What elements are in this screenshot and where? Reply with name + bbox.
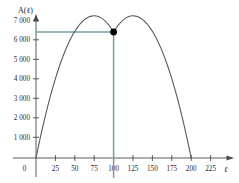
y-axis-title-text: A(ℓ) <box>18 6 33 15</box>
x-tick-label-50: 50 <box>71 165 79 173</box>
y-tick-label-1000: 1 000 <box>14 134 31 142</box>
x-tick-label-200: 200 <box>186 165 197 173</box>
y-tick-labels: 1 000 2 000 3 000 4 000 5 000 6 000 7 00… <box>14 17 31 142</box>
x-tick-label-150: 150 <box>147 165 158 173</box>
x-tick-label-25: 25 <box>52 165 60 173</box>
y-tick-label-2000: 2 000 <box>14 114 31 122</box>
x-tick-labels: 0 25 50 75 100 125 150 175 200 225 <box>23 165 217 173</box>
x-tick-label-125: 125 <box>128 165 139 173</box>
x-tick-label-225: 225 <box>205 165 216 173</box>
x-axis-title: ℓ <box>224 165 228 174</box>
x-tick-label-0: 0 <box>23 165 27 173</box>
chart-plot-area: 1 000 2 000 3 000 4 000 5 000 6 000 7 00… <box>0 0 239 183</box>
chart-figure: 1 000 2 000 3 000 4 000 5 000 6 000 7 00… <box>0 0 239 183</box>
x-tick-label-75: 75 <box>91 165 99 173</box>
y-tick-label-7000: 7 000 <box>14 17 31 25</box>
y-tick-label-5000: 5 000 <box>14 56 31 64</box>
y-axis-title: A(ℓ) <box>18 6 33 15</box>
x-tick-label-175: 175 <box>166 165 177 173</box>
x-axis-arrow-icon <box>227 155 235 160</box>
y-tick-label-3000: 3 000 <box>14 95 31 103</box>
y-tick-label-6000: 6 000 <box>14 36 31 44</box>
y-tick-label-4000: 4 000 <box>14 75 31 83</box>
x-axis-title-text: ℓ <box>224 165 228 174</box>
maximum-point-marker <box>110 29 117 36</box>
